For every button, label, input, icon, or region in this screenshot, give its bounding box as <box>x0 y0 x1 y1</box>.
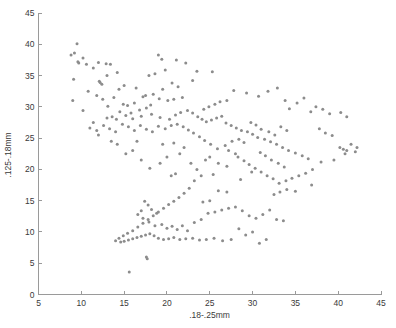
data-point <box>259 151 262 154</box>
data-point <box>250 170 253 173</box>
data-point <box>270 159 273 162</box>
data-point <box>148 232 151 235</box>
data-point <box>182 125 185 128</box>
data-point <box>268 209 271 212</box>
data-point <box>201 200 204 203</box>
data-point <box>167 237 170 240</box>
data-point <box>282 219 285 222</box>
data-point <box>202 108 205 111</box>
data-point <box>200 218 203 221</box>
data-point <box>283 165 286 168</box>
data-point <box>124 114 127 117</box>
data-point <box>256 136 259 139</box>
data-point <box>175 58 178 61</box>
data-point <box>237 155 240 158</box>
data-point <box>269 140 272 143</box>
data-point <box>172 236 175 239</box>
data-point <box>221 239 224 242</box>
data-point <box>217 162 220 165</box>
data-point <box>235 127 238 130</box>
data-point <box>111 115 114 118</box>
data-point <box>157 125 160 128</box>
data-point <box>321 108 324 111</box>
data-point <box>147 204 150 207</box>
data-point <box>97 133 100 136</box>
data-point <box>131 237 134 240</box>
data-point <box>188 187 191 190</box>
data-point <box>263 138 266 141</box>
data-point <box>220 209 223 212</box>
data-point <box>148 167 151 170</box>
data-point <box>243 141 246 144</box>
data-point <box>135 140 138 143</box>
data-point <box>106 117 109 120</box>
data-point <box>140 115 143 118</box>
data-point <box>151 130 154 133</box>
x-tick-label: 20 <box>162 298 172 308</box>
data-point <box>171 82 174 85</box>
data-point <box>122 103 125 106</box>
data-point <box>234 152 237 155</box>
data-point <box>265 238 268 241</box>
data-point <box>82 57 85 60</box>
data-point <box>164 127 167 130</box>
data-point <box>272 193 275 196</box>
data-point <box>215 117 218 120</box>
data-point <box>118 110 121 113</box>
data-point <box>144 94 147 97</box>
data-point <box>191 112 194 115</box>
y-tick-label: 40 <box>25 39 35 49</box>
data-point <box>205 120 208 123</box>
data-point <box>294 190 297 193</box>
data-point <box>251 133 254 136</box>
data-point <box>153 72 156 75</box>
data-point <box>251 230 254 233</box>
data-point <box>192 132 195 135</box>
y-tick-label: 0 <box>30 290 35 300</box>
data-point <box>184 237 187 240</box>
data-point <box>260 128 263 131</box>
data-point <box>249 121 252 124</box>
data-point <box>160 58 163 61</box>
data-point <box>119 240 122 243</box>
data-point <box>290 177 293 180</box>
data-point <box>219 100 222 103</box>
data-point <box>318 127 321 130</box>
data-point <box>195 70 198 73</box>
data-point <box>172 200 175 203</box>
data-point <box>85 63 88 66</box>
data-point <box>209 143 212 146</box>
data-point <box>141 217 144 220</box>
x-tick-label: 45 <box>376 298 386 308</box>
data-point <box>106 105 109 108</box>
data-point <box>216 147 219 150</box>
data-point <box>284 99 287 102</box>
data-point <box>165 155 168 158</box>
data-point <box>133 102 136 105</box>
data-point <box>72 78 75 81</box>
data-point <box>159 162 162 165</box>
data-point <box>147 220 150 223</box>
data-point <box>196 115 199 118</box>
data-point <box>178 152 181 155</box>
data-point <box>231 140 234 143</box>
data-point <box>160 223 163 226</box>
data-point <box>239 178 242 181</box>
data-point <box>138 108 141 111</box>
data-point <box>129 112 132 115</box>
data-point <box>275 218 278 221</box>
data-point <box>198 135 201 138</box>
data-point <box>275 143 278 146</box>
data-point <box>225 122 228 125</box>
data-point <box>141 95 144 98</box>
data-point <box>123 240 126 243</box>
data-point <box>122 234 125 237</box>
y-tick-label: 5 <box>30 258 35 268</box>
data-point-group <box>70 42 359 273</box>
x-tick-label: 25 <box>205 298 215 308</box>
data-point <box>350 143 353 146</box>
data-point <box>159 116 162 119</box>
x-tick-label: 40 <box>333 298 343 308</box>
data-point <box>189 162 192 165</box>
y-tick-label: 45 <box>25 8 35 18</box>
